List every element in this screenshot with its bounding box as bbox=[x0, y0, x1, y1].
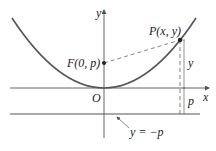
focus-to-point-dashed bbox=[104, 40, 180, 63]
x-axis-label: x bbox=[202, 90, 209, 104]
y-axis-label: y bbox=[95, 6, 102, 20]
point-label: P(x, y) bbox=[148, 24, 181, 38]
focus-label: F(0, p) bbox=[66, 56, 100, 70]
directrix-label: y = −p bbox=[129, 125, 164, 139]
parabola-diagram: y x O F(0, p) P(x, y) y p y = −p bbox=[0, 0, 216, 151]
distance-p-label: p bbox=[187, 94, 194, 108]
parabola-point bbox=[178, 38, 182, 42]
focus-point bbox=[102, 61, 106, 65]
origin-label: O bbox=[92, 91, 101, 105]
distance-y-label: y bbox=[187, 56, 194, 70]
directrix-pointer-arrow bbox=[117, 117, 129, 128]
